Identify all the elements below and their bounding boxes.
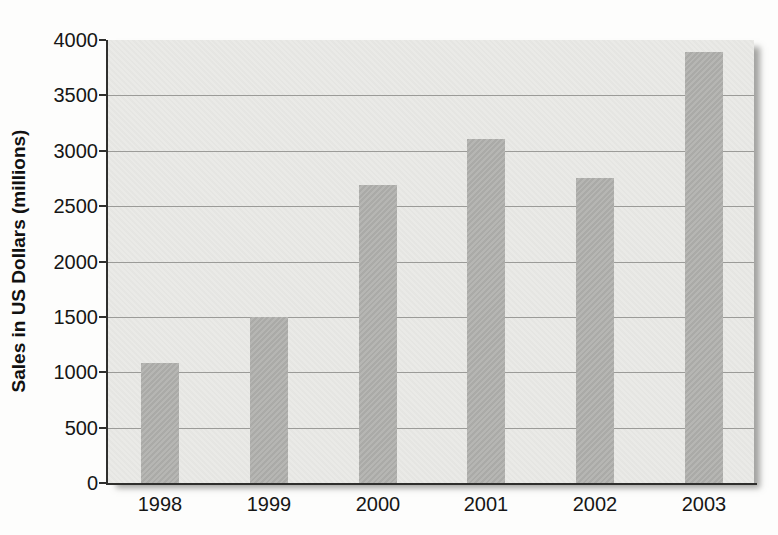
y-tick-label-2000: 2000	[28, 251, 98, 273]
x-tick-label-2001: 2001	[441, 492, 531, 516]
bar-1998	[141, 363, 179, 483]
y-axis-tick-0	[99, 482, 106, 484]
gridline-1500	[108, 317, 754, 318]
bar-2002	[576, 178, 614, 483]
bar-1999	[250, 317, 288, 483]
y-tick-label-3500: 3500	[28, 84, 98, 106]
y-axis-tick-2500	[99, 205, 106, 207]
bar-2001	[467, 139, 505, 483]
y-tick-label-1000: 1000	[28, 361, 98, 383]
gridline-3500	[108, 95, 754, 96]
y-tick-label-2500: 2500	[28, 195, 98, 217]
y-axis-tick-1000	[99, 371, 106, 373]
y-axis-title: Sales in US Dollars (millions)	[8, 130, 30, 393]
y-axis-tick-500	[99, 427, 106, 429]
y-axis-tick-4000	[99, 39, 106, 41]
bar-2000	[359, 185, 397, 483]
x-tick-label-2002: 2002	[550, 492, 640, 516]
x-tick-label-1999: 1999	[224, 492, 314, 516]
y-axis-tick-3500	[99, 94, 106, 96]
y-axis-tick-3000	[99, 150, 106, 152]
gridline-3000	[108, 151, 754, 152]
x-tick-label-2000: 2000	[333, 492, 423, 516]
gridline-1000	[108, 372, 754, 373]
x-axis-line	[106, 483, 757, 485]
bar-2003	[685, 52, 723, 483]
plot-area	[108, 40, 754, 483]
y-axis-tick-2000	[99, 261, 106, 263]
x-tick-label-1998: 1998	[115, 492, 205, 516]
x-tick-label-2003: 2003	[659, 492, 749, 516]
y-tick-label-3000: 3000	[28, 140, 98, 162]
y-axis-line	[106, 40, 108, 485]
y-tick-label-4000: 4000	[28, 29, 98, 51]
gridline-2000	[108, 262, 754, 263]
y-tick-label-0: 0	[28, 472, 98, 494]
y-tick-label-500: 500	[28, 417, 98, 439]
y-tick-label-1500: 1500	[28, 306, 98, 328]
gridline-2500	[108, 206, 754, 207]
y-axis-tick-1500	[99, 316, 106, 318]
bar-chart-figure: Sales in US Dollars (millions) 050010001…	[0, 0, 778, 535]
gridline-500	[108, 428, 754, 429]
